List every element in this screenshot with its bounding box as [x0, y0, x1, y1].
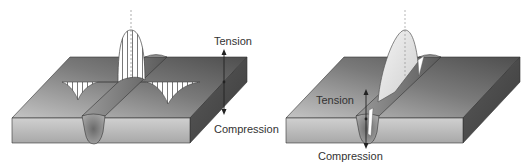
tension-label-right: Tension	[316, 94, 354, 106]
longitudinal-stress-peak	[118, 30, 145, 82]
compression-label-left: Compression	[214, 123, 279, 135]
weld-bead-crest-right	[419, 55, 441, 58]
weld-bead-crest	[145, 55, 167, 58]
compression-label-right: Compression	[318, 150, 383, 162]
welding-residual-stress-diagram: Tension Compression Tension Compression	[0, 0, 528, 168]
left-panel: Tension Compression	[12, 10, 279, 144]
tension-label-left: Tension	[214, 35, 252, 47]
right-panel: Tension Compression	[286, 10, 520, 162]
